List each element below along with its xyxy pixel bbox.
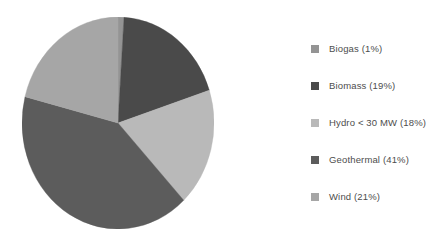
- legend-swatch-icon-hydro: [311, 119, 319, 127]
- pie-slice-group: [22, 17, 214, 229]
- pie-chart-plot: [22, 17, 214, 229]
- legend-label-hydro: Hydro < 30 MW (18%): [329, 117, 426, 128]
- legend-item-geothermal[interactable]: Geothermal (41%): [311, 141, 436, 178]
- legend-swatch-icon-biogas: [311, 45, 319, 53]
- legend-item-biogas[interactable]: Biogas (1%): [311, 30, 436, 67]
- legend-label-geothermal: Geothermal (41%): [329, 154, 409, 165]
- pie-svg: [22, 17, 214, 229]
- legend-item-hydro[interactable]: Hydro < 30 MW (18%): [311, 104, 436, 141]
- chart-legend: Biogas (1%) Biomass (19%) Hydro < 30 MW …: [311, 30, 436, 215]
- legend-label-biomass: Biomass (19%): [329, 80, 395, 91]
- legend-label-wind: Wind (21%): [329, 191, 380, 202]
- pie-chart-figure: Biogas (1%) Biomass (19%) Hydro < 30 MW …: [0, 0, 436, 252]
- legend-swatch-icon-biomass: [311, 82, 319, 90]
- legend-label-biogas: Biogas (1%): [329, 43, 382, 54]
- legend-swatch-icon-geothermal: [311, 156, 319, 164]
- legend-item-biomass[interactable]: Biomass (19%): [311, 67, 436, 104]
- legend-item-wind[interactable]: Wind (21%): [311, 178, 436, 215]
- legend-swatch-icon-wind: [311, 193, 319, 201]
